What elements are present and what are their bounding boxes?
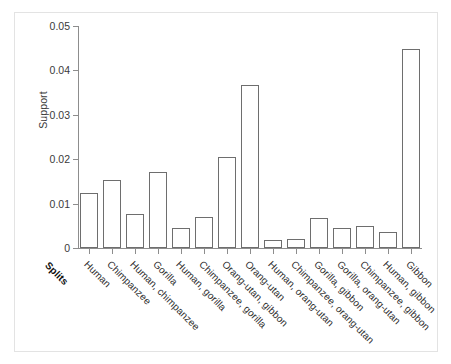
y-tick-mark [73,248,79,249]
chart-figure: Support 00.010.020.030.040.05 SplitsHuma… [0,0,451,364]
bar [126,214,144,248]
x-tick-mark [181,249,182,254]
bar-series [78,26,422,248]
y-tick-label: 0 [24,243,70,254]
x-tick-mark [411,249,412,254]
bar [241,85,259,248]
bar [218,157,236,248]
bar [310,218,328,248]
x-tick-mark [158,249,159,254]
x-tick-mark [135,249,136,254]
bar [356,226,374,248]
x-tick-mark [342,249,343,254]
y-tick-label: 0.04 [24,65,70,76]
y-tick-label: 0.05 [24,21,70,32]
x-tick-mark [227,249,228,254]
bar [172,228,190,248]
bar [195,217,213,248]
bar [149,172,167,248]
bar [103,180,121,248]
bar [287,239,305,248]
x-tick-mark [273,249,274,254]
bar [402,49,420,248]
bar [80,193,98,248]
y-tick-label: 0.02 [24,154,70,165]
x-tick-mark [388,249,389,254]
x-tick-mark [89,249,90,254]
x-tick-mark [204,249,205,254]
bar [333,228,351,248]
y-tick-label: 0.03 [24,110,70,121]
x-tick-mark [112,249,113,254]
bar [264,240,282,248]
x-tick-mark [365,249,366,254]
x-tick-mark [250,249,251,254]
y-tick-label: 0.01 [24,198,70,209]
x-tick-mark [296,249,297,254]
x-tick-mark [319,249,320,254]
bar [379,232,397,248]
